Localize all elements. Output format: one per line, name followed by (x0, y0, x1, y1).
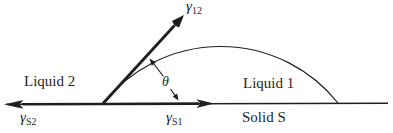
gamma-s1-subscript: S1 (172, 116, 183, 127)
gamma-12-vector (103, 26, 175, 104)
gamma-s2-subscript: S2 (26, 116, 37, 127)
gamma-12-label: γ12 (186, 0, 202, 16)
theta-lower-arrowhead-icon (173, 94, 179, 101)
gamma-12-subscript: 12 (192, 5, 202, 16)
gamma-s1-label: γS1 (166, 110, 182, 127)
theta-lower-leader-line (171, 89, 176, 96)
solid-s-label: Solid S (242, 110, 286, 125)
liquid-2-label: Liquid 2 (24, 74, 75, 89)
liquid-1-label: Liquid 1 (243, 76, 294, 91)
theta-label: θ (162, 75, 169, 89)
diagram-canvas (0, 0, 393, 133)
droplet-surface-arc (103, 46, 338, 103)
gamma-s2-label: γS2 (20, 110, 36, 127)
contact-angle-diagram: Liquid 2 Liquid 1 Solid S γ12 γS2 γS1 θ (0, 0, 393, 133)
